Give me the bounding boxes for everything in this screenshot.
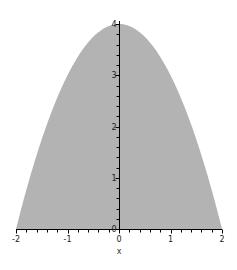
x-tick-label: 2 [219,235,224,244]
x-axis-label: x [117,247,122,256]
y-tick-label: 0 [111,225,116,234]
x-tick-label: -2 [12,235,20,244]
x-tick-label: 0 [116,235,121,244]
y-tick-label: 3 [111,71,116,80]
y-tick-label: 2 [111,123,116,132]
plot-canvas: -2-101201234 x [0,0,237,270]
x-tick-label: -1 [64,235,72,244]
x-tick-label: 1 [168,235,173,244]
y-tick-label: 4 [111,20,116,29]
y-tick-label: 1 [111,174,116,183]
